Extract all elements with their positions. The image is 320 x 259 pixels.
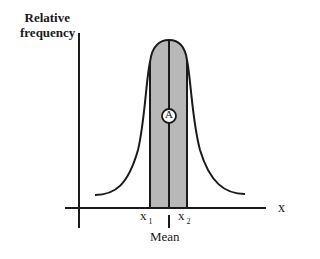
y-axis-label: Relative frequency <box>20 10 70 40</box>
x1-label-text: x <box>140 208 147 223</box>
region-a-label: A <box>164 108 174 120</box>
mean-label: Mean <box>150 229 180 245</box>
x2-label-text: x <box>178 208 185 223</box>
x2-subscript: 2 <box>187 217 191 226</box>
x-axis-label: x <box>278 200 285 216</box>
y-axis-label-line2: frequency <box>20 25 70 40</box>
x1-label: x1 <box>140 208 153 224</box>
y-axis-label-line1: Relative <box>20 10 70 25</box>
x2-label: x2 <box>178 208 191 224</box>
x1-subscript: 1 <box>149 217 153 226</box>
